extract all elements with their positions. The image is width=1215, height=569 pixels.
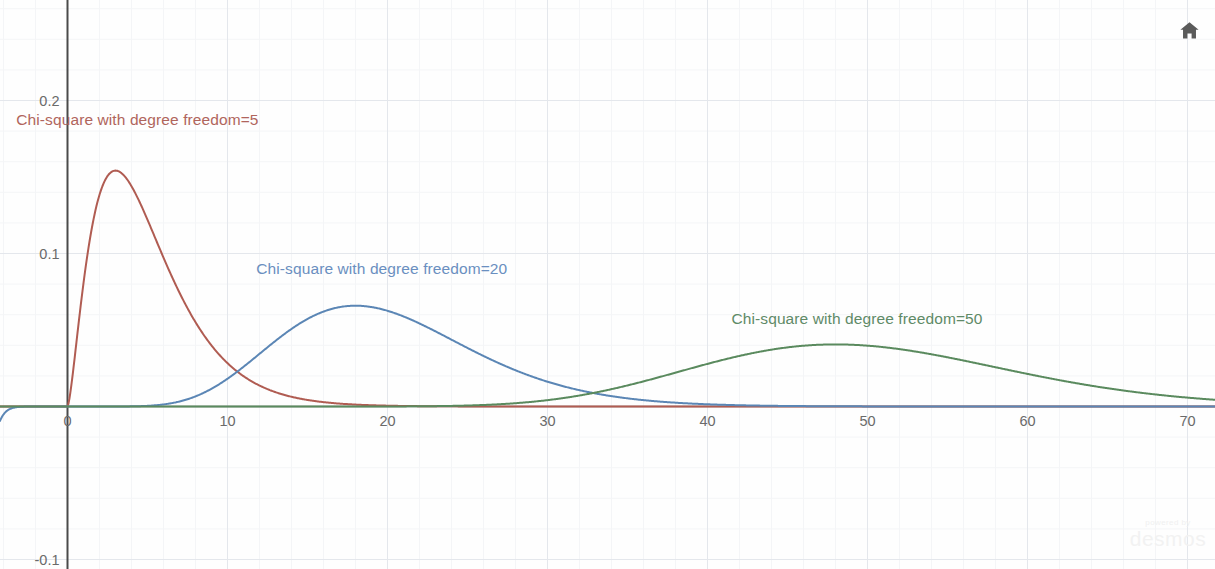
home-icon-glyph: [1179, 20, 1200, 41]
y-tick-label--0p1: -0.1: [35, 552, 60, 568]
curve-label-df5: Chi-square with degree freedom=5: [16, 111, 258, 129]
x-tick-label-60: 60: [1019, 413, 1035, 429]
home-icon[interactable]: [1175, 16, 1204, 45]
curve-label-df50: Chi-square with degree freedom=50: [732, 310, 983, 328]
distribution-curves: [0, 171, 1215, 421]
x-tick-label-0: 0: [63, 413, 71, 429]
y-tick-label-0p2: 0.2: [39, 93, 59, 109]
x-tick-label-30: 30: [539, 413, 555, 429]
x-tick-label-20: 20: [379, 413, 395, 429]
minor-gridlines: [0, 0, 1215, 569]
curve-df5: [0, 171, 1215, 407]
curve-df20: [0, 306, 1215, 421]
curve-label-df20: Chi-square with degree freedom=20: [256, 260, 507, 278]
x-tick-label-40: 40: [699, 413, 715, 429]
x-tick-label-70: 70: [1179, 413, 1195, 429]
graphing-calculator-canvas[interactable]: 010203040506070 0.20.1-0.1 Chi-square wi…: [0, 0, 1215, 569]
x-tick-label-50: 50: [859, 413, 875, 429]
y-tick-label-0p1: 0.1: [39, 246, 59, 262]
chart-plot-area[interactable]: [0, 0, 1215, 569]
x-tick-label-10: 10: [219, 413, 235, 429]
